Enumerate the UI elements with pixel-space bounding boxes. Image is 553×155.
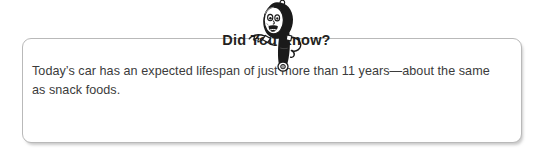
callout-title: Did You Know? [0,32,553,48]
did-you-know-callout-figure: Did You Know? Today’s car has an expecte… [0,0,553,155]
callout-body-text: Today’s car has an expected lifespan of … [32,62,504,100]
